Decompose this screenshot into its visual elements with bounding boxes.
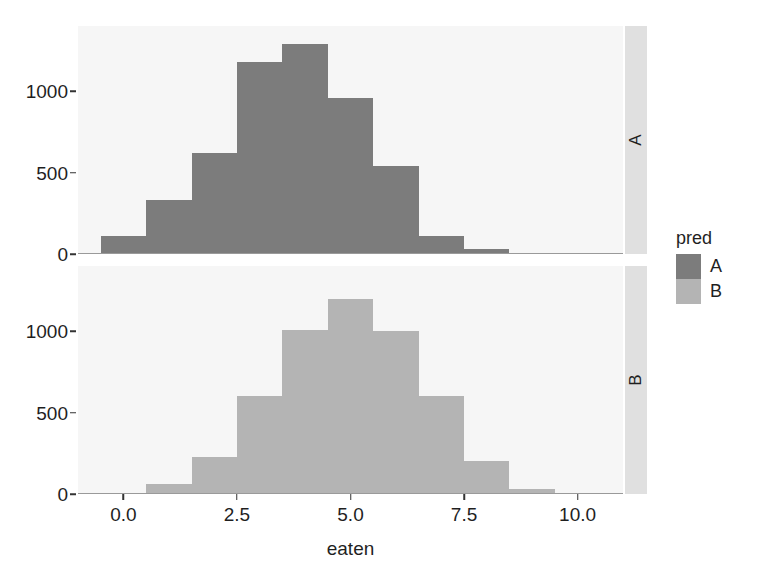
x-tick-mark <box>123 494 125 500</box>
facet-strip-label-B: B <box>626 374 646 385</box>
histogram-bar <box>419 236 464 254</box>
y-tick-mark <box>70 172 76 174</box>
facet-panel-A <box>78 26 623 254</box>
histogram-bar <box>328 98 373 254</box>
legend-item[interactable]: A <box>676 254 768 279</box>
histogram-bar <box>282 330 327 494</box>
legend-item[interactable]: B <box>676 279 768 304</box>
y-tick-mark <box>70 90 76 92</box>
x-tick-label: 2.5 <box>224 504 250 525</box>
facet-strip-A: A <box>625 26 647 254</box>
x-tick-label: 7.5 <box>451 504 477 525</box>
y-tick-label: 0 <box>57 245 68 264</box>
y-tick-label: 1000 <box>26 82 68 101</box>
x-tick-mark <box>577 494 579 500</box>
histogram-bar <box>419 396 464 494</box>
y-tick-mark <box>70 330 76 332</box>
x-axis-title: eaten <box>78 538 623 560</box>
facet-panel-B <box>78 266 623 494</box>
panel-baseline <box>78 253 623 254</box>
histogram-bar <box>101 236 146 254</box>
histogram-bar <box>373 331 418 494</box>
legend: pred AB <box>676 228 768 304</box>
histogram-bar <box>328 299 373 494</box>
histogram-bar <box>373 166 418 254</box>
legend-items: AB <box>676 254 768 304</box>
facet-strip-label-A: A <box>626 134 646 145</box>
plot-area-A <box>78 26 623 254</box>
y-tick-label: 500 <box>36 163 68 182</box>
x-tick-label: 10.0 <box>559 504 596 525</box>
y-axis: 0500100005001000 <box>0 0 78 510</box>
x-tick-mark <box>350 494 352 500</box>
x-tick-label: 0.0 <box>110 504 136 525</box>
legend-key-swatch <box>676 254 701 279</box>
y-tick-label: 0 <box>57 485 68 504</box>
legend-item-label: A <box>710 256 722 277</box>
y-tick-mark <box>70 253 76 255</box>
legend-key-swatch <box>676 279 701 304</box>
legend-title: pred <box>676 228 768 248</box>
facet-strip-B: B <box>625 266 647 494</box>
histogram-bar <box>146 200 191 254</box>
histogram-bar <box>464 461 509 494</box>
histogram-bar <box>192 457 237 494</box>
legend-item-label: B <box>710 281 722 302</box>
x-tick-label: 5.0 <box>337 504 363 525</box>
histogram-bar <box>237 62 282 254</box>
plot-area-B <box>78 266 623 494</box>
y-tick-label: 1000 <box>26 322 68 341</box>
histogram-bar <box>237 396 282 494</box>
y-tick-mark <box>70 493 76 495</box>
y-tick-label: 500 <box>36 403 68 422</box>
chart-figure: 0500100005001000 A B 0.02.55.07.510.0 ea… <box>0 0 773 582</box>
x-tick-mark <box>236 494 238 500</box>
histogram-bar <box>192 153 237 254</box>
y-tick-mark <box>70 412 76 414</box>
histogram-bar <box>282 44 327 254</box>
x-tick-mark <box>463 494 465 500</box>
